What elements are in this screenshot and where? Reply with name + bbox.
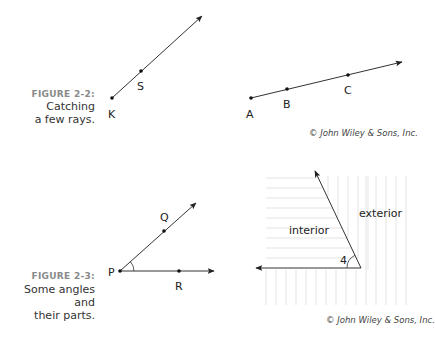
label-b: B (283, 98, 291, 111)
point-k (110, 96, 114, 100)
label-r: R (175, 280, 183, 293)
point-c (346, 73, 350, 77)
label-angle-4: 4 (340, 254, 347, 267)
label-interior: interior (289, 224, 329, 237)
angle-arc (347, 255, 355, 268)
label-a: A (246, 108, 254, 121)
point-r (177, 269, 181, 273)
label-c: C (344, 84, 352, 97)
label-q: Q (160, 211, 169, 224)
point-q (162, 229, 166, 233)
label-exterior: exterior (359, 207, 402, 220)
point-b (285, 87, 289, 91)
angle-qpr: P Q R (108, 203, 214, 293)
ray-ks: K S (108, 16, 202, 121)
label-s: S (137, 80, 144, 93)
point-s (139, 69, 143, 73)
angle-arc (130, 262, 134, 271)
point-a (249, 96, 253, 100)
ray-abc: A B C (246, 62, 402, 121)
exterior-hatching (266, 176, 406, 305)
point-p (118, 269, 122, 273)
angle-4-regions: 4 interior exterior (256, 171, 406, 305)
label-k: K (108, 108, 116, 121)
interior-hatching (266, 178, 356, 258)
label-p: P (108, 266, 115, 279)
